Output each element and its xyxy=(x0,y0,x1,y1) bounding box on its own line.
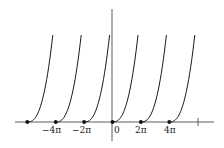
marked-point-dot xyxy=(25,120,29,124)
curve-branch-6 xyxy=(169,35,195,122)
curve-group xyxy=(27,35,195,122)
curve-branch-2 xyxy=(56,35,81,122)
x-tick-label-neg2pi: −2π xyxy=(72,125,91,135)
marked-point-dot xyxy=(54,120,58,124)
x-tick-label-2pi: 2π xyxy=(135,125,147,135)
periodic-curves-chart: −4π −2π 0 2π 4π xyxy=(0,0,224,148)
x-tick-label-neg4pi: −4π xyxy=(42,125,61,135)
curve-branch-3 xyxy=(84,35,110,122)
curve-branch-5 xyxy=(141,35,167,122)
x-tick-label-zero: 0 xyxy=(114,125,120,135)
marked-point-dot xyxy=(82,120,86,124)
marked-point-dot xyxy=(167,120,171,124)
marked-point-dot xyxy=(139,120,143,124)
curve-branch-1 xyxy=(27,35,53,122)
curve-branch-4 xyxy=(113,35,139,122)
x-tick-label-4pi: 4π xyxy=(164,125,176,135)
marked-point-dot xyxy=(111,120,115,124)
